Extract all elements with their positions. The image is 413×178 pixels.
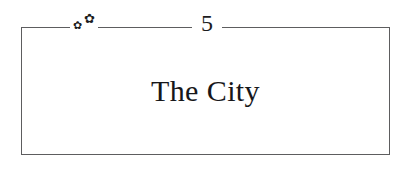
chapter-number: 5	[192, 11, 222, 35]
chapter-title: The City	[22, 74, 389, 107]
top-rule-left-segment	[21, 27, 70, 28]
floral-ornament-right-icon: ✿	[82, 12, 96, 25]
chapter-heading: ✿ ✿ 5 The City	[0, 0, 413, 178]
top-rule-middle-segment	[98, 27, 192, 28]
top-rule-right-segment	[222, 27, 390, 28]
